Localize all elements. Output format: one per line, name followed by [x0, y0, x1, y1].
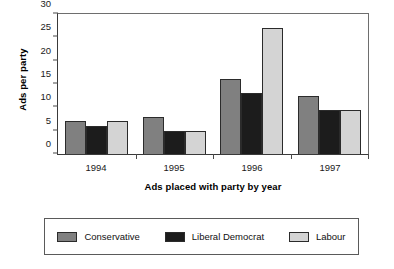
- bar-1997-conservative: [298, 96, 319, 154]
- legend-entry-labour[interactable]: Labour: [289, 231, 346, 242]
- bar-1994-liberal-democrat: [86, 126, 107, 154]
- chart-legend: ConservativeLiberal DemocratLabour: [44, 218, 359, 255]
- bar-group-1994: [58, 14, 136, 154]
- bar-group-1996: [213, 14, 291, 154]
- plot-area: 051015202530: [57, 13, 369, 155]
- bar-1994-labour: [107, 121, 128, 154]
- bar-group-1995: [136, 14, 214, 154]
- y-axis-title: Ads per party: [17, 25, 28, 135]
- y-axis-tick-label: 5: [46, 114, 58, 125]
- legend-label: Conservative: [84, 231, 139, 242]
- legend-label: Liberal Democrat: [192, 231, 264, 242]
- y-axis-tick-label: 15: [40, 68, 58, 79]
- bar-groups-container: [58, 14, 368, 154]
- legend-swatch-icon: [289, 232, 309, 242]
- y-axis-tick-label: 30: [40, 0, 58, 9]
- bar-1996-labour: [262, 28, 283, 154]
- x-axis-tick-mark: [213, 154, 214, 159]
- y-axis-tick-label: 25: [40, 21, 58, 32]
- bar-1995-conservative: [143, 117, 164, 154]
- x-axis-tick-mark: [136, 154, 137, 159]
- x-axis-label-1994: 1994: [57, 162, 135, 173]
- x-axis-title: Ads placed with party by year: [57, 181, 369, 192]
- bar-1997-liberal-democrat: [319, 110, 340, 154]
- bar-1996-conservative: [220, 79, 241, 154]
- legend-entry-liberal-democrat[interactable]: Liberal Democrat: [165, 231, 264, 242]
- bar-1994-conservative: [65, 121, 86, 154]
- bar-1995-labour: [185, 131, 206, 154]
- legend-swatch-icon: [57, 232, 77, 242]
- x-axis-label-1996: 1996: [213, 162, 291, 173]
- x-axis-label-1997: 1997: [291, 162, 369, 173]
- y-axis-tick-label: 10: [40, 91, 58, 102]
- y-axis-tick-label: 20: [40, 44, 58, 55]
- x-axis-tick-mark: [291, 154, 292, 159]
- x-axis-label-1995: 1995: [135, 162, 213, 173]
- legend-entry-conservative[interactable]: Conservative: [57, 231, 139, 242]
- x-axis-tick-labels: 1994199519961997: [57, 162, 369, 173]
- bar-group-1997: [291, 14, 369, 154]
- legend-label: Labour: [316, 231, 346, 242]
- bar-1996-liberal-democrat: [241, 93, 262, 154]
- bar-chart-figure: Ads per party 051015202530 1994199519961…: [0, 0, 394, 269]
- legend-swatch-icon: [165, 232, 185, 242]
- bar-1995-liberal-democrat: [164, 131, 185, 154]
- x-axis-tick-mark: [368, 154, 369, 159]
- bar-1997-labour: [340, 110, 361, 154]
- y-axis-tick-label: 0: [46, 138, 58, 149]
